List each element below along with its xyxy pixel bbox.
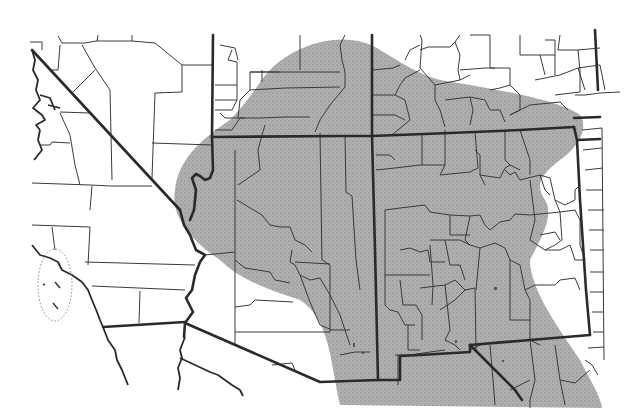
range-map: Southwestern United States and northern …	[0, 0, 634, 420]
map-canvas	[0, 0, 634, 420]
